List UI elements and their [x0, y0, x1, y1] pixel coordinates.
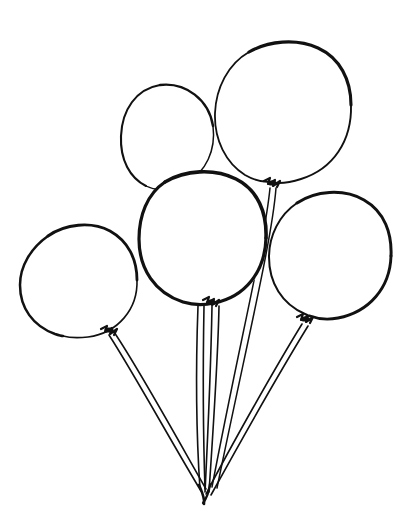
balloon-right-knot-dot: [300, 316, 309, 321]
balloon-left: [20, 223, 137, 339]
balloon-center: [139, 171, 266, 306]
drawing-canvas: Balloon Bunch: [0, 0, 417, 531]
balloon-left-knot-dot: [104, 327, 113, 332]
balloon-left-fill: [20, 223, 137, 339]
balloon-top-right-knot-dot: [268, 180, 277, 185]
balloons-illustration: Balloon Bunch: [0, 0, 417, 531]
balloon-center-knot-dot: [206, 299, 216, 304]
